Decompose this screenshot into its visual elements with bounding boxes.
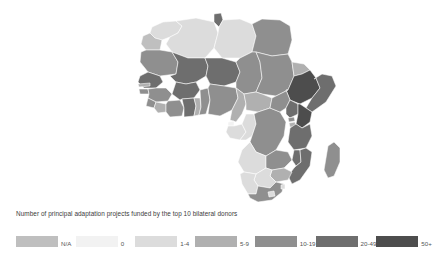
country-burkina-faso <box>172 82 200 100</box>
country-eswatini <box>281 184 285 189</box>
legend-label-1-4: 1-4 <box>180 234 189 249</box>
legend-swatch-10-19 <box>255 236 297 247</box>
legend-swatch-50-plus <box>376 236 418 247</box>
country-cote-divoire <box>166 100 184 117</box>
legend-label-10-19: 10-19 <box>300 234 316 249</box>
legend-items: N/A 0 1-4 5-9 10-19 20-49 <box>16 233 436 249</box>
legend-item-na[interactable]: N/A <box>16 233 76 249</box>
country-tanzania <box>288 124 312 150</box>
legend-swatch-1-4 <box>135 236 177 247</box>
africa-map <box>0 0 443 204</box>
country-liberia <box>154 102 166 113</box>
legend-item-20-49[interactable]: 20-49 <box>316 233 377 249</box>
legend-swatch-na <box>16 236 58 247</box>
legend-item-10-19[interactable]: 10-19 <box>255 233 316 249</box>
legend-item-5-9[interactable]: 5-9 <box>195 233 255 249</box>
legend-label-50-plus: 50+ <box>421 234 432 249</box>
legend-label-5-9: 5-9 <box>240 234 249 249</box>
country-niger <box>205 58 240 86</box>
legend-item-50-plus[interactable]: 50+ <box>376 233 436 249</box>
country-libya <box>214 19 256 58</box>
country-guinea-bissau <box>139 89 149 94</box>
legend-item-0[interactable]: 0 <box>76 233 136 249</box>
country-lesotho <box>268 191 275 197</box>
legend-swatch-20-49 <box>316 236 358 247</box>
country-rwanda <box>288 117 295 122</box>
country-gambia <box>138 83 150 87</box>
africa-map-svg <box>0 0 443 204</box>
country-egypt <box>252 19 292 56</box>
country-drc <box>250 108 286 156</box>
legend-label-na: N/A <box>61 234 71 249</box>
legend-swatch-0 <box>76 236 118 247</box>
country-namibia <box>240 172 258 194</box>
country-equatorial-guinea <box>228 121 234 126</box>
choropleth-figure: Number of principal adaptation projects … <box>0 0 443 259</box>
map-legend: Number of principal adaptation projects … <box>0 204 443 259</box>
legend-label-20-49: 20-49 <box>361 234 377 249</box>
country-madagascar <box>324 142 340 178</box>
country-mauritania <box>140 50 178 76</box>
legend-label-0: 0 <box>121 234 124 249</box>
legend-swatch-5-9 <box>195 236 237 247</box>
country-ghana <box>182 98 196 117</box>
legend-caption: Number of principal adaptation projects … <box>16 209 237 218</box>
legend-item-1-4[interactable]: 1-4 <box>135 233 195 249</box>
